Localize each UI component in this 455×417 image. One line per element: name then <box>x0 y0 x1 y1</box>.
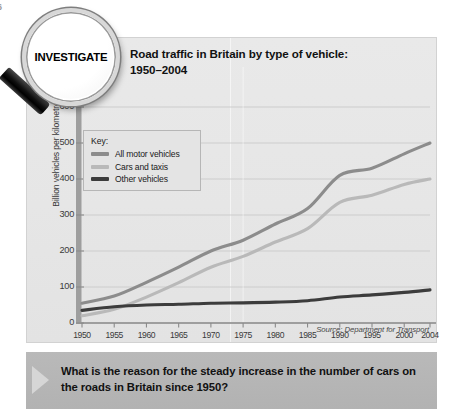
question-text: What is the reason for the steady increa… <box>61 363 425 396</box>
chart-legend: Key: All motor vehiclesCars and taxisOth… <box>83 130 201 191</box>
title-line-2: 1950–2004 <box>130 62 420 78</box>
source-attribution: Source: Department for Transport <box>316 325 429 334</box>
x-tick-label: 1950 <box>67 330 97 340</box>
legend-swatch <box>91 165 109 169</box>
legend-label: Cars and taxis <box>115 162 168 172</box>
question-banner: What is the reason for the steady increa… <box>26 352 437 409</box>
legend-swatch <box>91 152 109 156</box>
y-axis-bar <box>76 79 82 323</box>
legend-title: Key: <box>91 136 193 146</box>
legend-label: Other vehicles <box>115 174 168 184</box>
page-number: 6 <box>0 2 2 12</box>
y-tick-label: 0 <box>46 317 74 327</box>
page-title: Road traffic in Britain by type of vehic… <box>130 46 420 79</box>
x-tick-label: 1965 <box>164 330 194 340</box>
x-tick-label: 1980 <box>260 330 290 340</box>
investigate-label: INVESTIGATE <box>22 8 120 106</box>
legend-item: All motor vehicles <box>91 149 193 159</box>
series-line <box>82 290 430 311</box>
legend-swatch <box>91 177 109 181</box>
y-tick-label: 200 <box>46 245 74 255</box>
legend-label: All motor vehicles <box>115 149 180 159</box>
x-tick-label: 1960 <box>131 330 161 340</box>
legend-rows: All motor vehiclesCars and taxisOther ve… <box>91 149 193 184</box>
x-tick-label: 1955 <box>99 330 129 340</box>
title-line-1: Road traffic in Britain by type of vehic… <box>130 46 420 62</box>
legend-item: Cars and taxis <box>91 162 193 172</box>
y-tick-label: 300 <box>46 209 74 219</box>
arrow-right-icon <box>32 366 49 394</box>
magnifier-icon: INVESTIGATE <box>6 3 136 115</box>
x-tick-label: 1975 <box>228 330 258 340</box>
y-tick-label: 500 <box>46 137 74 147</box>
y-tick-label: 400 <box>46 173 74 183</box>
legend-item: Other vehicles <box>91 174 193 184</box>
x-tick-label: 1970 <box>196 330 226 340</box>
y-tick-label: 100 <box>46 281 74 291</box>
